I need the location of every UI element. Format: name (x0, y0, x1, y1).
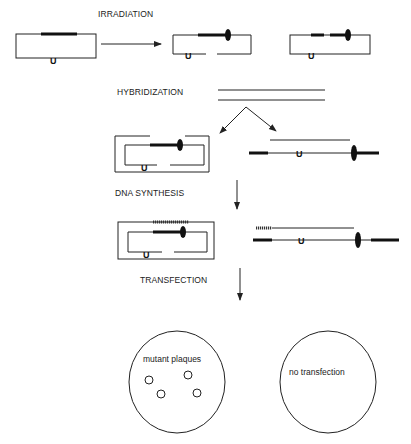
irradiated-plasmid-1: U (173, 29, 251, 61)
plate-no-transfection: no transfection (280, 331, 376, 433)
synthesized-plasmid: U (118, 222, 214, 260)
hybrid-gapped-duplex: U (115, 136, 209, 173)
plaque (157, 390, 165, 398)
arrow-branch-left (220, 107, 246, 133)
photoproduct-lesion (351, 145, 357, 161)
template-plasmid: U (16, 34, 96, 66)
step-label-hybridization: HYBRIDIZATION (117, 87, 183, 97)
uracil-marker: U (296, 149, 303, 159)
uracil-marker: U (298, 236, 305, 246)
photoproduct-lesion (180, 226, 186, 238)
uracil-marker: U (143, 250, 150, 260)
irradiated-plasmid-2: U (290, 29, 370, 61)
mutagenesis-diagram: IRRADIATION HYBRIDIZATION DNA SYNTHESIS … (0, 0, 411, 444)
step-label-dna-synthesis: DNA SYNTHESIS (115, 188, 185, 198)
photoproduct-lesion (345, 29, 351, 41)
arrow-branch-right (246, 107, 276, 131)
plate-label-none: no transfection (289, 367, 345, 377)
step-label-irradiation: IRRADIATION (98, 9, 153, 19)
step-label-transfection: TRANSFECTION (140, 275, 207, 285)
uracil-marker: U (141, 163, 148, 173)
plate-mutant-plaques: mutant plaques (129, 331, 225, 433)
plaque (145, 376, 153, 384)
photoproduct-lesion (225, 29, 231, 41)
photoproduct-lesion (355, 232, 361, 248)
uracil-marker: U (308, 51, 315, 61)
plaque (193, 389, 201, 397)
plate-label-mutant: mutant plaques (143, 354, 201, 364)
plaque (184, 371, 192, 379)
uracil-marker: U (185, 51, 192, 61)
uracil-marker: U (50, 56, 57, 66)
linear-duplex (218, 90, 325, 100)
photoproduct-lesion (177, 139, 183, 151)
hybrid-linear: U (249, 140, 379, 161)
synthesized-linear: U (253, 228, 399, 248)
